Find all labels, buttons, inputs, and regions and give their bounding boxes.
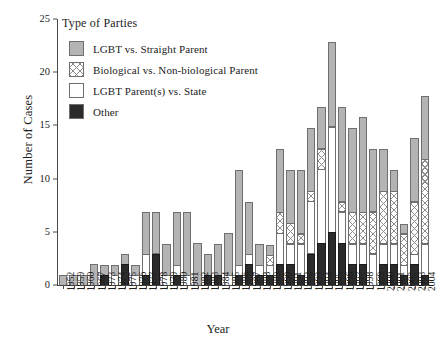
y-axis-tick-label: 5 <box>20 227 50 238</box>
bar-1994 <box>317 104 325 285</box>
x-axis-tick-mark <box>384 286 385 289</box>
x-axis-tick-label: 1980 <box>180 272 190 291</box>
bar-segment <box>183 212 191 276</box>
x-axis-tick-mark <box>270 286 271 289</box>
x-axis-tick-mark <box>404 286 405 289</box>
bar-segment <box>410 254 418 265</box>
x-axis-tick-mark <box>208 286 209 289</box>
x-axis-tick-mark <box>425 286 426 289</box>
legend-item-label: LGBT vs. Straight Parent <box>93 43 208 55</box>
bar-segment <box>266 245 274 256</box>
x-axis-tick-label: 1975 <box>129 272 139 291</box>
bar-segment <box>390 191 398 244</box>
x-axis-tick-mark <box>125 286 126 289</box>
x-axis-tick-label: 1981 <box>191 272 201 291</box>
bar-segment <box>421 96 429 160</box>
chart-legend: Type of Parties LGBT vs. Straight Parent… <box>62 16 312 122</box>
legend-rows: LGBT vs. Straight ParentBiological vs. N… <box>62 38 312 122</box>
y-axis-tick-label: 20 <box>20 67 50 78</box>
bar-segment <box>379 244 387 265</box>
bar-segment <box>317 107 325 150</box>
bar-segment <box>359 117 367 213</box>
x-axis-tick-mark <box>415 286 416 289</box>
bar-segment <box>348 212 356 244</box>
bar-segment <box>328 42 336 127</box>
bar-segment <box>328 127 336 233</box>
bar-segment <box>286 244 294 265</box>
bar-1997 <box>348 125 356 285</box>
y-axis-tick-mark <box>53 19 57 20</box>
bar-segment <box>266 255 274 266</box>
legend-swatch-icon <box>69 41 84 56</box>
x-axis-tick-label: 1977 <box>149 272 159 291</box>
x-axis-tick-label: 2002 <box>408 272 418 291</box>
legend-item: Other <box>62 101 312 122</box>
x-axis-title: Year <box>0 322 436 337</box>
legend-item-label: LGBT Parent(s) vs. State <box>93 85 206 97</box>
bar-segment <box>379 191 387 244</box>
bar-segment <box>307 191 315 202</box>
x-axis-tick-mark <box>363 286 364 289</box>
x-axis-tick-mark <box>249 286 250 289</box>
x-axis-tick-label: 1974 <box>118 272 128 291</box>
legend-item: LGBT Parent(s) vs. State <box>62 80 312 101</box>
legend-item-label: Biological vs. Non-biological Parent <box>93 64 258 76</box>
bar-segment <box>307 128 315 192</box>
bar-1998 <box>359 115 367 285</box>
bar-segment <box>245 202 253 255</box>
bar-segment <box>400 224 408 235</box>
x-axis-tick-mark <box>332 286 333 289</box>
x-axis-tick-label: 1995 <box>335 272 345 291</box>
bar-segment <box>142 212 150 255</box>
bar-segment <box>359 244 367 265</box>
bar-segment <box>421 159 429 244</box>
bar-1992 <box>297 168 305 285</box>
x-axis-tick-mark <box>74 286 75 289</box>
x-axis-tick-mark <box>105 286 106 289</box>
x-axis-tick-label: 2001 <box>397 272 407 291</box>
bar-2004 <box>421 93 429 285</box>
x-axis-tick-label: 1983 <box>211 272 221 291</box>
bar-segment <box>286 170 294 223</box>
y-axis-title: Number of Cases <box>21 60 36 220</box>
bar-segment <box>379 149 387 192</box>
legend-item: Biological vs. Non-biological Parent <box>62 59 312 80</box>
y-axis-tick-label: 10 <box>20 173 50 184</box>
bar-1993 <box>307 125 315 285</box>
bar-segment <box>390 244 398 265</box>
bar-segment <box>348 128 356 213</box>
x-axis-tick-mark <box>291 286 292 289</box>
x-axis-tick-label: 1952 <box>67 272 77 291</box>
y-axis-tick-mark <box>53 178 57 179</box>
bar-segment <box>121 254 129 265</box>
bar-1986 <box>235 168 243 285</box>
x-axis-tick-label: 1967 <box>98 272 108 291</box>
bar-segment <box>307 201 315 254</box>
bar-segment <box>338 107 346 203</box>
x-axis-tick-mark <box>156 286 157 289</box>
x-axis-tick-mark <box>63 286 64 289</box>
bar-segment <box>224 233 232 276</box>
x-axis-tick-label: 2004 <box>428 272 436 291</box>
y-axis-tick-mark <box>53 231 57 232</box>
bar-segment <box>317 149 325 170</box>
x-axis-tick-label: 1992 <box>304 272 314 291</box>
x-axis-tick-mark <box>84 286 85 289</box>
bar-segment <box>173 212 181 265</box>
x-axis-tick-mark <box>146 286 147 289</box>
bar-segment <box>286 223 294 244</box>
bar-segment <box>369 149 377 213</box>
y-axis-tick-label: 15 <box>20 120 50 131</box>
bar-segment <box>235 170 243 266</box>
bar-segment <box>390 170 398 191</box>
x-axis-tick-mark <box>218 286 219 289</box>
legend-item: LGBT vs. Straight Parent <box>62 38 312 59</box>
x-axis-tick-label: 1984 <box>222 272 232 291</box>
x-axis-tick-mark <box>301 286 302 289</box>
bar-1990 <box>276 147 284 285</box>
x-axis-tick-mark <box>260 286 261 289</box>
x-axis-tick-label: 1986 <box>242 272 252 291</box>
bar-1995 <box>328 40 336 285</box>
x-axis-tick-mark <box>187 286 188 289</box>
bar-segment <box>276 149 284 213</box>
